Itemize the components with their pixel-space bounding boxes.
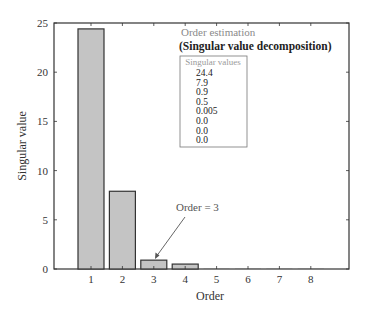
singular-value-item: 0.0	[196, 126, 208, 136]
y-tick-label: 5	[43, 214, 49, 226]
y-tick-label: 25	[37, 17, 49, 29]
singular-value-item: 24.4	[196, 68, 213, 78]
annotation-arrow	[156, 217, 185, 257]
bar	[78, 29, 104, 269]
y-axis-label: Singular value	[15, 111, 29, 181]
x-tick-label: 3	[151, 273, 157, 285]
x-tick-label: 5	[214, 273, 220, 285]
singular-value-item: 0.0	[196, 135, 208, 145]
x-tick-label: 1	[88, 273, 94, 285]
singular-value-item: 0.5	[196, 97, 208, 107]
singular-value-item: 7.9	[196, 78, 208, 88]
y-tick-label: 15	[37, 115, 49, 127]
x-tick-label: 4	[182, 273, 188, 285]
order-annotation: Order = 3	[176, 201, 219, 213]
x-axis-label: Order	[196, 289, 224, 303]
x-tick-label: 6	[245, 273, 251, 285]
annotation-subtitle: (Singular value decomposition)	[179, 40, 332, 53]
x-tick-label: 7	[277, 273, 283, 285]
singular-value-item: 0.005	[196, 106, 218, 116]
x-tick-label: 8	[308, 273, 314, 285]
y-tick-label: 0	[43, 263, 49, 275]
singular-values-box	[180, 56, 247, 147]
bar	[109, 191, 135, 269]
y-tick-label: 10	[37, 165, 49, 177]
bar-chart: 12345678 0510152025 Order Singular value…	[0, 0, 367, 314]
singular-values-box-title: Singular values	[185, 57, 241, 67]
x-tick-label: 2	[120, 273, 126, 285]
annotation-title: Order estimation	[181, 26, 256, 38]
y-tick-label: 20	[37, 66, 49, 78]
singular-value-item: 0.9	[196, 87, 208, 97]
singular-value-item: 0.0	[196, 116, 208, 126]
